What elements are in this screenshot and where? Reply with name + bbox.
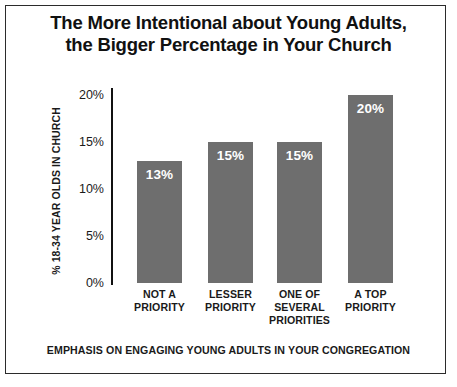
bar-value-a-top-priority: 20% — [348, 101, 393, 116]
bar-value-lesser-priority: 15% — [208, 148, 253, 163]
category-label-line: PRIORITIES — [262, 314, 337, 327]
category-label-line: NOT A — [122, 288, 197, 301]
category-label-line: PRIORITY — [122, 301, 197, 314]
y-tick-label-0: 0% — [60, 276, 104, 290]
bar-one-of-several-priorities[interactable]: 15% — [277, 142, 322, 283]
y-axis-line — [111, 88, 113, 285]
category-label-line: A TOP — [333, 288, 408, 301]
y-tick-label-5: 5% — [60, 229, 104, 243]
category-label-not-a-priority: NOT A PRIORITY — [122, 288, 197, 314]
bar-lesser-priority[interactable]: 15% — [208, 142, 253, 283]
chart-title-line-1: The More Intentional about Young Adults, — [10, 12, 447, 34]
bar-a-top-priority[interactable]: 20% — [348, 95, 393, 283]
chart-title-line-2: the Bigger Percentage in Your Church — [10, 34, 447, 56]
x-axis-caption: EMPHASIS ON ENGAGING YOUNG ADULTS IN YOU… — [10, 344, 447, 356]
category-label-line: ONE OF — [262, 288, 337, 301]
y-tick-label-20: 20% — [60, 88, 104, 102]
bar-not-a-priority[interactable]: 13% — [137, 161, 182, 283]
bar-value-one-of-several-priorities: 15% — [277, 148, 322, 163]
category-label-line: PRIORITY — [193, 301, 268, 314]
category-label-lesser-priority: LESSER PRIORITY — [193, 288, 268, 314]
category-label-line: PRIORITY — [333, 301, 408, 314]
chart-title: The More Intentional about Young Adults,… — [10, 12, 447, 56]
category-label-one-of-several-priorities: ONE OF SEVERAL PRIORITIES — [262, 288, 337, 327]
y-tick-label-15: 15% — [60, 135, 104, 149]
bar-value-not-a-priority: 13% — [137, 167, 182, 182]
category-label-line: SEVERAL — [262, 301, 337, 314]
category-label-line: LESSER — [193, 288, 268, 301]
chart-figure: The More Intentional about Young Adults,… — [0, 0, 457, 387]
category-label-a-top-priority: A TOP PRIORITY — [333, 288, 408, 314]
y-tick-label-10: 10% — [60, 182, 104, 196]
